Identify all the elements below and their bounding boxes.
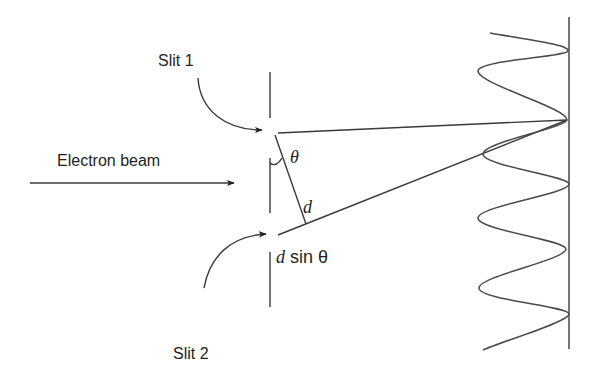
ray-from-slit1 [278,120,567,133]
d-label: d [303,197,313,217]
slit1-pointer-arrow [198,78,262,130]
theta-label: θ [290,147,299,167]
beam-label: Electron beam [57,152,160,169]
slit2-pointer-arrow [204,234,266,288]
theta-angle-arc [270,158,282,165]
double-slit-diagram: Slit 1 Electron beam Slit 2 θ d d sin θ [0,0,602,375]
d-sin-theta-label: d sin θ [276,247,328,267]
ray-from-slit2 [278,120,567,235]
slit1-label: Slit 1 [158,52,194,69]
slit2-label: Slit 2 [173,345,209,362]
interference-pattern-curve [478,33,569,350]
